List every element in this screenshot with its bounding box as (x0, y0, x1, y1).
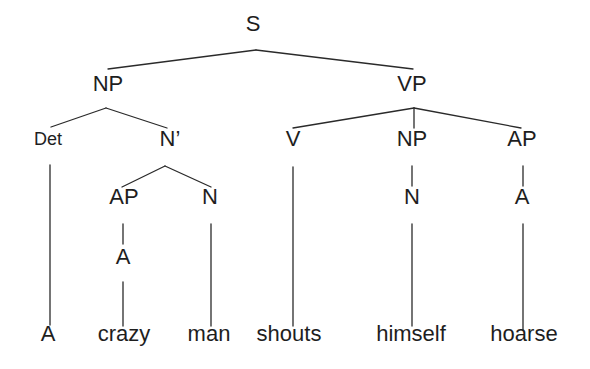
edge-s-to-vp (256, 50, 413, 69)
leaf-word-w_himself: himself (376, 321, 447, 346)
node-n1: N (202, 184, 218, 209)
node-s: S (246, 11, 261, 36)
leaf-word-w_a: A (41, 321, 56, 346)
leaf-word-w_man: man (188, 321, 231, 346)
edge-np1-to-det (51, 108, 106, 127)
edge-s-to-np1 (108, 50, 256, 69)
node-v: V (286, 126, 301, 151)
leaf-word-w_hoarse: hoarse (490, 321, 557, 346)
node-a1: A (116, 244, 131, 269)
node-ap1: AP (109, 184, 138, 209)
edge-np1-to-nbar (106, 108, 167, 128)
node-a2: A (515, 184, 530, 209)
syntax-tree: SNPVPDetN’VNPAPAPNNAAAcrazymanshoutshims… (0, 0, 590, 369)
node-vp: VP (397, 71, 426, 96)
node-n2: N (404, 184, 420, 209)
node-ap2: AP (507, 126, 536, 151)
edge-vp-to-ap2 (414, 108, 521, 128)
node-det: Det (34, 129, 62, 149)
tree-nodes: SNPVPDetN’VNPAPAPNNAAAcrazymanshoutshims… (34, 11, 558, 346)
node-np2: NP (397, 126, 428, 151)
leaf-word-w_shouts: shouts (257, 321, 322, 346)
node-np1: NP (93, 71, 124, 96)
node-nbar: N’ (160, 126, 181, 151)
leaf-word-w_crazy: crazy (98, 321, 151, 346)
